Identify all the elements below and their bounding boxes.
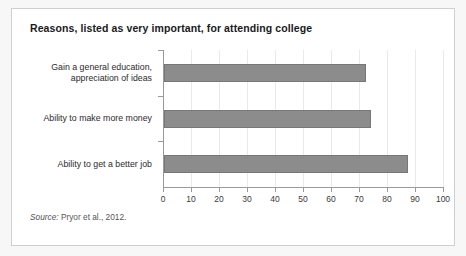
x-axis-tick-label: 20: [204, 194, 234, 204]
bar: [164, 155, 408, 173]
figure-card: Reasons, listed as very important, for a…: [11, 8, 455, 246]
x-axis-tick-label: 30: [232, 194, 262, 204]
x-axis-tick-label: 100: [428, 194, 458, 204]
y-axis-tick: [158, 50, 164, 51]
bar: [164, 64, 366, 82]
x-axis-tick-label: 70: [344, 194, 374, 204]
source-label: Source:: [30, 212, 59, 222]
x-axis-tick: [331, 187, 332, 192]
y-axis-tick: [158, 141, 164, 142]
category-label: Gain a general education,appreciation of…: [24, 62, 152, 84]
x-axis-tick: [275, 187, 276, 192]
category-label: Ability to make more money: [24, 113, 152, 124]
x-axis-tick-label: 10: [176, 194, 206, 204]
x-axis-tick: [303, 187, 304, 192]
x-axis-tick: [247, 187, 248, 192]
x-axis-tick: [359, 187, 360, 192]
x-axis-tick: [415, 187, 416, 192]
x-axis-tick-label: 90: [400, 194, 430, 204]
source-note: Source: Pryor et al., 2012.: [30, 212, 126, 222]
source-text: Pryor et al., 2012.: [59, 212, 127, 222]
x-axis-tick-label: 50: [288, 194, 318, 204]
gridline: [443, 50, 444, 187]
x-axis-tick: [163, 187, 164, 192]
x-axis-tick: [443, 187, 444, 192]
x-axis-tick: [191, 187, 192, 192]
gridline: [415, 50, 416, 187]
x-axis-tick-label: 0: [148, 194, 178, 204]
bar: [164, 110, 371, 128]
x-axis-tick-label: 40: [260, 194, 290, 204]
x-axis-tick: [219, 187, 220, 192]
x-axis-tick-label: 80: [372, 194, 402, 204]
y-axis-tick: [158, 96, 164, 97]
x-axis-tick-label: 60: [316, 194, 346, 204]
x-axis-tick: [387, 187, 388, 192]
category-label: Ability to get a better job: [24, 159, 152, 170]
